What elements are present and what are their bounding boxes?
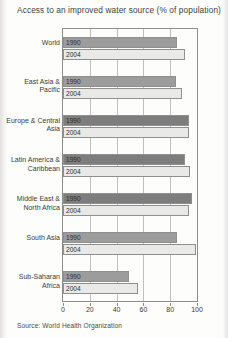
bar-group: 19902004	[63, 146, 197, 185]
bar-group: 19902004	[63, 29, 197, 68]
bar-series-label: 2004	[66, 50, 81, 59]
source-note: Source: World Health Organization	[17, 322, 122, 329]
chart-page: Access to an improved water source (% of…	[0, 0, 228, 338]
bar-group: 19902004	[63, 68, 197, 107]
bar-series-label: 2004	[66, 167, 81, 176]
page-gutter-right	[223, 0, 228, 338]
bar-1990: 1990	[63, 232, 177, 243]
bar-1990: 1990	[63, 115, 189, 126]
x-tick-label: 40	[107, 306, 127, 313]
bar-2004: 2004	[63, 244, 196, 255]
bar-series-label: 2004	[66, 284, 81, 293]
chart-title: Access to an improved water source (% of…	[17, 5, 222, 16]
category-label: World	[2, 39, 60, 48]
bar-2004: 2004	[63, 49, 185, 60]
bar-2004: 2004	[63, 127, 189, 138]
bar-1990: 1990	[63, 271, 129, 282]
bar-2004: 2004	[63, 166, 190, 177]
bar-series-label: 1990	[66, 155, 81, 164]
bar-series-label: 2004	[66, 245, 81, 254]
bar-1990: 1990	[63, 154, 185, 165]
bar-group: 19902004	[63, 225, 197, 264]
bar-series-label: 2004	[66, 206, 81, 215]
bar-series-label: 1990	[66, 272, 81, 281]
plot-area: 1990200419902004199020041990200419902004…	[62, 28, 198, 302]
x-tick-label: 80	[160, 306, 180, 313]
bar-group: 19902004	[63, 264, 197, 303]
bar-2004: 2004	[63, 283, 138, 294]
category-label: Sub-Saharan Africa	[2, 273, 60, 290]
bar-1990: 1990	[63, 37, 177, 48]
bar-group: 19902004	[63, 186, 197, 225]
bar-series-label: 1990	[66, 116, 81, 125]
category-label: Europe & Central Asia	[2, 117, 60, 134]
bar-series-label: 1990	[66, 38, 81, 47]
bar-group: 19902004	[63, 107, 197, 146]
bar-series-label: 1990	[66, 194, 81, 203]
bar-1990: 1990	[63, 76, 176, 87]
bar-series-label: 2004	[66, 128, 81, 137]
x-tick-label: 20	[80, 306, 100, 313]
bar-2004: 2004	[63, 205, 189, 216]
category-label: Latin America & Caribbean	[2, 156, 60, 173]
bar-series-label: 1990	[66, 77, 81, 86]
category-label: South Asia	[2, 234, 60, 243]
x-tick-label: 100	[187, 306, 207, 313]
bar-series-label: 1990	[66, 233, 81, 242]
x-tick-label: 0	[53, 306, 73, 313]
category-label: Middle East & North Africa	[2, 195, 60, 212]
x-tick-label: 60	[133, 306, 153, 313]
bar-1990: 1990	[63, 193, 192, 204]
bar-2004: 2004	[63, 88, 182, 99]
category-label: East Asia & Pacific	[2, 78, 60, 95]
bar-series-label: 2004	[66, 89, 81, 98]
